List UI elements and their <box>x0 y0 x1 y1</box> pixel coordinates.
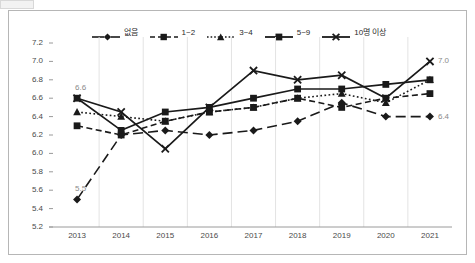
data-point-label: 5.5 <box>75 185 86 193</box>
y-axis-tick-label: 7.2 <box>21 39 43 47</box>
x-axis-tick-label: 2021 <box>413 232 447 240</box>
chart-frame: 없음 1~2 3~4 <box>8 10 467 255</box>
x-axis-tick-label: 2016 <box>192 232 226 240</box>
series-point-marker <box>205 131 213 139</box>
x-axis-tick-label: 2020 <box>369 232 403 240</box>
series-point-marker <box>118 127 125 134</box>
x-axis-tick-label: 2019 <box>325 232 359 240</box>
series-point-marker <box>162 145 169 152</box>
x-axis-tick-label: 2013 <box>60 232 94 240</box>
series-point-marker <box>294 86 301 93</box>
series-line <box>77 103 430 200</box>
series-point-marker <box>427 76 434 83</box>
data-point-label: 6.6 <box>75 84 86 92</box>
y-axis-tick-label: 6.2 <box>21 131 43 139</box>
series-point-marker <box>382 81 389 88</box>
series-point-marker <box>74 122 81 129</box>
data-point-label: 6.4 <box>438 113 449 121</box>
y-axis-tick-label: 7.0 <box>21 57 43 65</box>
series-point-marker <box>382 113 390 121</box>
y-axis-tick-label: 6.0 <box>21 149 43 157</box>
y-axis-tick-label: 6.6 <box>21 94 43 102</box>
series-point-marker <box>426 58 433 65</box>
y-axis-tick-label: 5.8 <box>21 168 43 176</box>
series-point-marker <box>250 126 258 134</box>
series-point-marker <box>73 108 81 115</box>
series-point-marker <box>250 95 257 102</box>
series-point-marker <box>161 126 169 134</box>
y-axis-tick-label: 6.8 <box>21 76 43 84</box>
chart-plot-area <box>9 11 468 256</box>
x-axis-tick-label: 2014 <box>104 232 138 240</box>
series-point-marker <box>162 109 169 116</box>
window-corner-stub <box>0 0 34 9</box>
y-axis-tick-label: 5.6 <box>21 186 43 194</box>
series-point-marker <box>338 104 345 111</box>
series-point-marker <box>427 90 434 97</box>
x-axis-tick-label: 2017 <box>237 232 271 240</box>
x-axis-tick-label: 2018 <box>281 232 315 240</box>
series-point-marker <box>426 113 434 121</box>
series-point-marker <box>338 86 345 93</box>
data-point-label: 7.0 <box>438 57 449 65</box>
y-axis-tick-label: 5.4 <box>21 205 43 213</box>
y-axis-tick-label: 6.4 <box>21 113 43 121</box>
x-axis-tick-label: 2015 <box>148 232 182 240</box>
series-point-marker <box>294 117 302 125</box>
y-axis-tick-label: 5.2 <box>21 223 43 231</box>
